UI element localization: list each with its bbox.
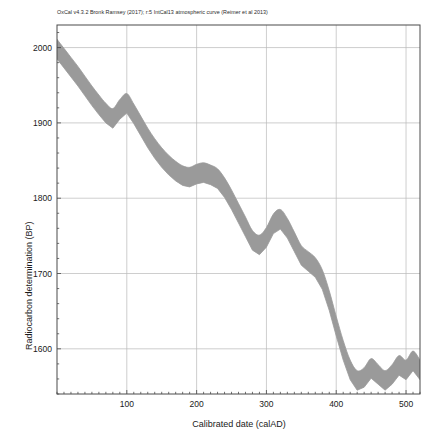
y-tick-label: 1800	[33, 193, 52, 203]
y-tick-label: 1900	[33, 118, 52, 128]
x-tick-label: 500	[399, 399, 413, 409]
x-axis-title: Calibrated date (calAD)	[57, 419, 421, 429]
y-tick-label: 2000	[33, 43, 52, 53]
x-tick-label: 300	[259, 399, 273, 409]
calibration-curve-plot	[0, 0, 434, 445]
y-tick-label: 1600	[33, 344, 52, 354]
x-tick-label: 400	[329, 399, 343, 409]
radiocarbon-calibration-figure: OxCal v4.3.2 Bronk Ramsey (2017); r:5 In…	[0, 0, 434, 445]
y-tick-label: 1700	[33, 269, 52, 279]
x-tick-label: 200	[190, 399, 204, 409]
x-tick-label: 100	[120, 399, 134, 409]
